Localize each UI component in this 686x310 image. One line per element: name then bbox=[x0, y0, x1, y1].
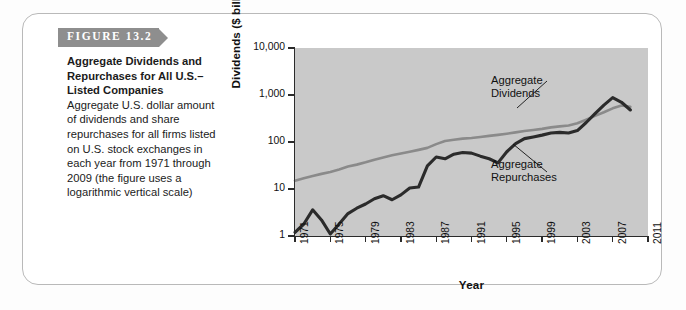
x-tick-label: 1983 bbox=[405, 221, 416, 244]
x-tick bbox=[541, 236, 542, 242]
x-tick bbox=[330, 236, 331, 242]
caption-body: Aggregate U.S. dollar amount of dividend… bbox=[67, 98, 219, 200]
x-tick bbox=[506, 236, 507, 242]
x-tick-label: 1999 bbox=[546, 221, 557, 244]
x-tick-label: 2011 bbox=[652, 222, 663, 244]
figure-banner-label: FIGURE 13.2 bbox=[58, 28, 159, 47]
annotation-leader-lines bbox=[295, 48, 648, 236]
figure-card: FIGURE 13.2 Aggregate Dividends and Repu… bbox=[22, 13, 662, 285]
annotation-aggregate-repurchases: Aggregate Repurchases bbox=[491, 158, 557, 185]
annotation-dividends-line2: Dividends bbox=[491, 87, 543, 100]
y-tick bbox=[288, 94, 295, 95]
y-tick-label: 10 bbox=[231, 182, 285, 193]
annotation-repurchases-line2: Repurchases bbox=[491, 171, 557, 184]
figure-banner: FIGURE 13.2 bbox=[58, 28, 168, 47]
y-tick-label: 100 bbox=[231, 135, 285, 146]
x-tick-label: 2003 bbox=[581, 221, 592, 244]
caption-title: Aggregate Dividends and Repurchases for … bbox=[67, 54, 219, 98]
figure-root: FIGURE 13.2 Aggregate Dividends and Repu… bbox=[0, 0, 686, 310]
x-tick bbox=[577, 236, 578, 242]
x-tick bbox=[612, 236, 613, 242]
x-axis-title: Year bbox=[295, 278, 648, 291]
y-tick-label: 1,000 bbox=[231, 88, 285, 99]
x-tick-label: 2007 bbox=[617, 221, 628, 244]
x-tick-label: 1979 bbox=[370, 221, 381, 244]
x-tick-label: 1987 bbox=[440, 221, 451, 244]
annotation-repurchases-line1: Aggregate bbox=[491, 158, 557, 171]
annotation-aggregate-dividends: Aggregate Dividends bbox=[491, 74, 543, 101]
y-tick bbox=[288, 47, 295, 48]
x-tick-label: 1991 bbox=[476, 221, 487, 244]
x-tick bbox=[471, 236, 472, 242]
x-tick bbox=[365, 236, 366, 242]
y-tick bbox=[288, 188, 295, 189]
x-tick bbox=[436, 236, 437, 242]
annotation-dividends-line1: Aggregate bbox=[491, 74, 543, 87]
x-tick-label: 1995 bbox=[511, 221, 522, 244]
x-tick bbox=[400, 236, 401, 242]
figure-caption: Aggregate Dividends and Repurchases for … bbox=[67, 54, 219, 200]
figure-banner-arrow-icon bbox=[159, 29, 168, 47]
x-tick-label: 1975 bbox=[334, 221, 345, 244]
x-tick bbox=[647, 236, 648, 242]
x-tick-label: 1971 bbox=[299, 221, 310, 244]
chart: Dividends ($ billions) 10,0001,000100101… bbox=[235, 32, 665, 284]
x-tick bbox=[294, 236, 295, 242]
y-tick-label: 10,000 bbox=[231, 41, 285, 52]
plot-area bbox=[295, 48, 648, 236]
y-tick-label: 1 bbox=[231, 229, 285, 240]
y-tick bbox=[288, 141, 295, 142]
